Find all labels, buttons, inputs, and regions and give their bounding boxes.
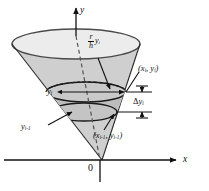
x-axis-label: x: [183, 155, 187, 165]
radius-ratio-label: r h yi: [88, 33, 100, 50]
cone-disk-method-figure: y x 0 r h yi yi yi-1 (xi, yi) Δyi (xi-1,…: [0, 0, 209, 191]
radius-ratio-denominator: h: [88, 42, 94, 50]
figure-canvas: [0, 0, 209, 191]
radius-ratio-variable: yi: [95, 37, 100, 46]
point-lower-label: (xi-1, yi-1): [93, 131, 122, 140]
delta-y-label: Δyi: [133, 97, 144, 106]
y-i-minus-1-label: yi-1: [21, 122, 31, 131]
y-i-label: yi: [47, 87, 52, 96]
radius-ratio-fraction: r h: [88, 33, 94, 50]
y-axis-label: y: [80, 6, 84, 16]
point-upper-label: (xi, yi): [138, 64, 158, 73]
origin-label: 0: [88, 163, 93, 173]
point-lower-center-leader: [48, 112, 72, 125]
